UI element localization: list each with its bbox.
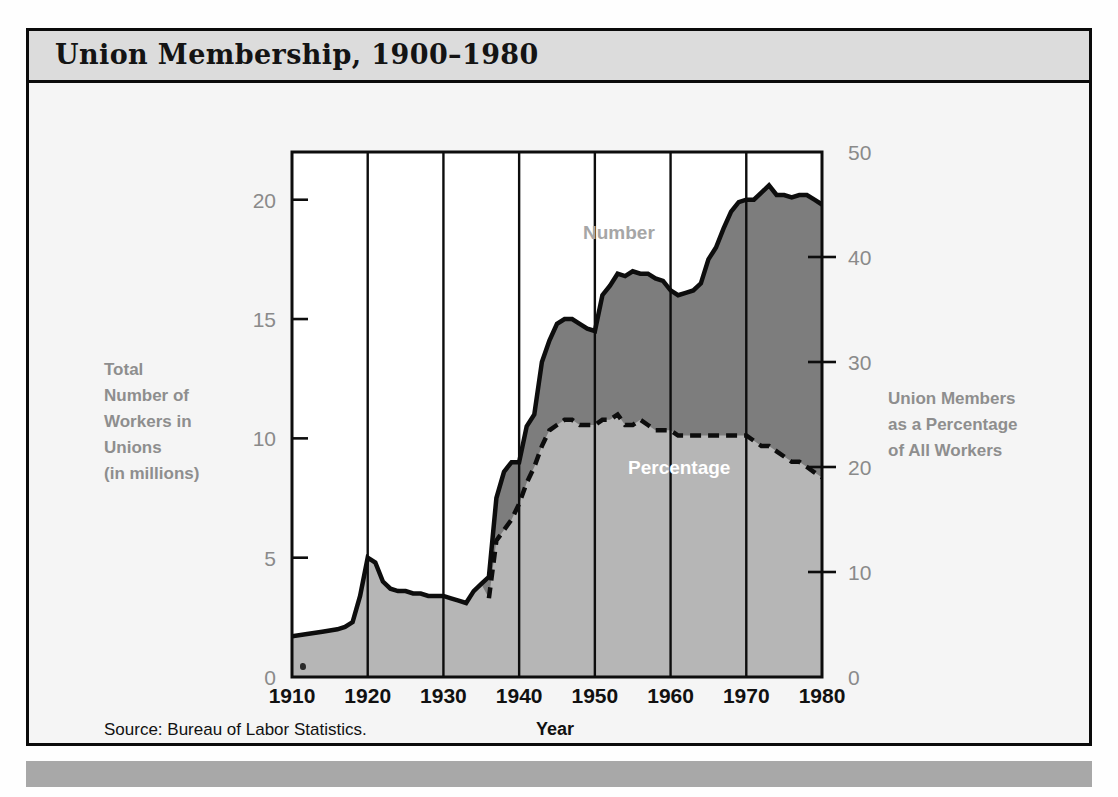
- left-tick-label-15: 15: [253, 308, 276, 331]
- series-label-number: Number: [583, 222, 655, 244]
- x-axis-title: Year: [536, 719, 574, 740]
- x-tick-label-1970: 1970: [723, 684, 770, 707]
- right-tick-label-0: 0: [848, 666, 860, 689]
- print-speck-artifact: [300, 663, 306, 670]
- x-tick-label-1920: 1920: [344, 684, 391, 707]
- left-tick-label-10: 10: [253, 427, 276, 450]
- right-tick-label-50: 50: [848, 141, 871, 164]
- left-tick-label-5: 5: [264, 547, 276, 570]
- x-axis-tick-labels: 19101920193019401950196019701980: [269, 684, 846, 707]
- x-tick-label-1940: 1940: [496, 684, 543, 707]
- left-tick-label-20: 20: [253, 189, 276, 212]
- x-tick-label-1980: 1980: [799, 684, 846, 707]
- right-tick-label-30: 30: [848, 351, 871, 374]
- footer-band: [26, 761, 1092, 787]
- right-tick-label-10: 10: [848, 561, 871, 584]
- left-axis-label: Total Number of Workers in Unions (in mi…: [104, 357, 199, 487]
- x-tick-label-1960: 1960: [647, 684, 694, 707]
- x-tick-label-1910: 1910: [269, 684, 316, 707]
- right-tick-label-20: 20: [848, 456, 871, 479]
- right-tick-label-40: 40: [848, 246, 871, 269]
- right-axis-label: Union Members as a Percentage of All Wor…: [888, 386, 1017, 464]
- x-tick-label-1930: 1930: [420, 684, 467, 707]
- source-note: Source: Bureau of Labor Statistics.: [104, 720, 367, 740]
- plot-container: 05101520 01020304050 1910192019301940195…: [0, 0, 1118, 797]
- chart-figure: Union Membership, 1900–1980 05101520 010…: [0, 0, 1118, 797]
- x-tick-label-1950: 1950: [571, 684, 618, 707]
- series-label-percentage: Percentage: [628, 457, 730, 479]
